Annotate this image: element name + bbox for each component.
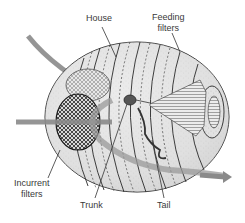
label-feeding-text-1: Feeding [152,12,185,23]
label-incurrent-text-1: Incurrent [14,178,50,189]
outgoing-arrowhead [223,171,232,183]
outgoing-right-arrow [200,175,225,177]
trunk [124,95,136,105]
label-incurrent-text-2: filters [14,189,50,200]
label-feeding-filters: Feeding filters [152,12,185,34]
label-house: House [86,13,112,24]
label-house-text: House [86,13,112,23]
label-tail-text: Tail [157,200,171,210]
label-incurrent-filters: Incurrent filters [14,178,50,200]
label-tail: Tail [157,200,171,211]
larvacean-house-diagram: House Feeding filters Incurrent filters … [0,0,245,223]
label-trunk-text: Trunk [80,200,103,210]
label-feeding-text-2: filters [152,23,185,34]
label-trunk: Trunk [80,200,103,211]
incurrent-filters-leader [48,150,60,178]
